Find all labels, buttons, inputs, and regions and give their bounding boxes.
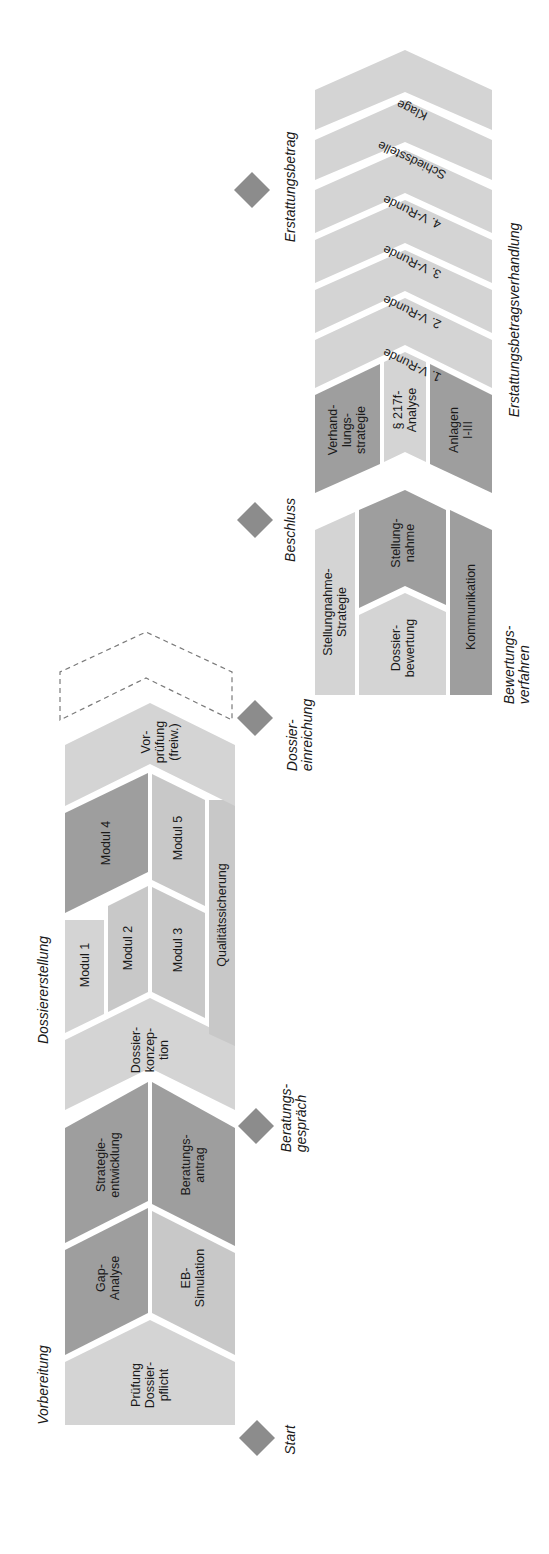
label-anlagen: Anlagen I-III (447, 407, 475, 453)
label-verhandlungsstrategie: Verhand- lungs- strategie (326, 405, 368, 456)
label-vorpruefung: Vor- prüfung (freiw.) (139, 721, 181, 763)
phase-label-vorbereitung: Vorbereitung (36, 1345, 51, 1425)
label-qualitaetssicherung: Qualitätssicherung (215, 863, 229, 967)
label-beratungsantrag: Beratungs- antrag (179, 1134, 207, 1195)
phase-label-dossiererstellung: Dossiererstellung (36, 936, 51, 1044)
milestone-label-dossiereinreichung: Dossier- einreichung (285, 699, 315, 771)
milestone-beratungsgespraech-icon (238, 1108, 274, 1144)
label-modul5: Modul 5 (171, 816, 185, 860)
milestone-label-erstattungsbetrag: Erstattungsbetrag (283, 132, 298, 243)
milestone-erstattungsbetrag-icon (234, 172, 270, 208)
label-stellungnahme-strategie: Stellungnahme- Strategie (321, 568, 349, 656)
label-modul4: Modul 4 (99, 821, 113, 865)
label-eb-simulation: EB- Simulation (179, 1249, 207, 1307)
label-217f-analyse: § 217f- Analyse (391, 388, 419, 432)
process-diagram (0, 0, 549, 1554)
phase-label-erstattungsbetragsverhandlung: Erstattungsbetragsverhandlung (507, 223, 522, 418)
milestone-label-beratungsgespraech: Beratungs- gespräch (279, 1084, 309, 1152)
milestone-start-icon (239, 1420, 275, 1456)
label-strategieentwicklung: Strategie- entwicklung (94, 1132, 122, 1197)
milestone-label-start: Start (283, 1425, 298, 1455)
label-dossierbewertung: Dossier- bewertung (389, 619, 417, 677)
label-modul2: Modul 2 (121, 926, 135, 970)
label-modul3: Modul 3 (171, 928, 185, 972)
milestone-dossiereinreichung-icon (237, 700, 273, 736)
milestone-label-beschluss: Beschluss (283, 498, 298, 562)
label-pruefung-dossierpflicht: Prüfung Dossier- pflicht (129, 1362, 171, 1409)
phase-label-bewertungsverfahren: Bewertungs- verfahren (502, 626, 532, 705)
label-stellungnahme: Stellung- nahme (389, 518, 417, 567)
label-gap-analyse: Gap- Analyse (94, 1256, 122, 1300)
label-kommunikation: Kommunikation (464, 564, 478, 650)
label-modul1: Modul 1 (78, 943, 92, 987)
label-dossierkonzeption: Dossier- konzep- tion (129, 1027, 171, 1074)
milestone-beschluss-icon (237, 502, 273, 538)
